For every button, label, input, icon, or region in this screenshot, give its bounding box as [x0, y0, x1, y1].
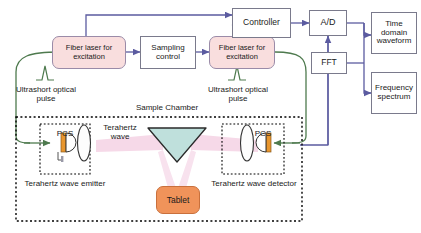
label-pcs-emitter: PCS [53, 130, 77, 139]
block-ad-converter[interactable]: A/D [309, 10, 347, 36]
label-terahertz-detector: Terahertz wave detector [206, 180, 302, 189]
diagram-canvas: Fiber laser for excitation Sampling cont… [0, 0, 421, 233]
block-fiber-laser-right[interactable]: Fiber laser for excitation [209, 36, 275, 69]
label-terahertz-wave: Terahertz wave [94, 124, 146, 142]
label-ultrashort-pulse-right: Ultrashort optical pulse [198, 86, 278, 104]
label-sample-chamber: Sample Chamber [122, 104, 212, 113]
block-fft[interactable]: FFT [311, 52, 347, 74]
block-controller[interactable]: Controller [232, 8, 291, 38]
label-pcs-detector: PCS [251, 130, 275, 139]
label-ultrashort-pulse-left: Ultrashort optical pulse [6, 86, 86, 104]
label-terahertz-emitter: Terahertz wave emitter [17, 180, 113, 189]
block-sampling-control[interactable]: Sampling control [140, 36, 196, 69]
block-time-domain-waveform[interactable]: Time domain waveform [371, 12, 417, 54]
block-frequency-spectrum[interactable]: Frequency spectrum [371, 72, 417, 114]
block-fiber-laser-left[interactable]: Fiber laser for excitation [52, 36, 126, 69]
connector-layer [0, 0, 421, 233]
tablet-sample[interactable]: Tablet [156, 186, 200, 214]
lens-emitter-icon [78, 125, 91, 161]
